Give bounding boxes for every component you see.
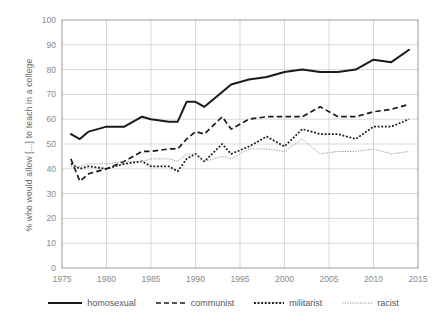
x-tick-label: 1980	[97, 274, 116, 284]
legend-label: racist	[377, 298, 399, 308]
y-tick-label: 0	[51, 263, 56, 273]
chart-legend: homosexualcommunistmilitaristracist	[0, 298, 447, 308]
y-tick-label: 50	[47, 139, 57, 149]
x-tick-label: 1985	[142, 274, 161, 284]
legend-label: homosexual	[87, 298, 136, 308]
legend-swatch-icon	[342, 299, 372, 307]
x-tick-label: 1990	[186, 274, 205, 284]
legend-item-racist[interactable]: racist	[342, 298, 399, 308]
plot-area: 0102030405060708090100 19751980198519901…	[0, 0, 447, 322]
y-tick-label: 90	[47, 40, 57, 50]
legend-swatch-icon	[48, 299, 82, 307]
x-tick-labels: 197519801985199019952000200520102015	[53, 274, 428, 284]
x-tick-label: 2010	[364, 274, 383, 284]
gridlines	[62, 20, 418, 268]
y-tick-label: 60	[47, 114, 57, 124]
x-tick-label: 2005	[320, 274, 339, 284]
legend-item-communist[interactable]: communist	[156, 298, 235, 308]
legend-swatch-icon	[254, 299, 284, 307]
legend-item-homosexual[interactable]: homosexual	[48, 298, 136, 308]
y-tick-label: 100	[42, 15, 56, 25]
y-tick-label: 30	[47, 189, 57, 199]
x-tick-label: 1975	[53, 274, 72, 284]
legend-swatch-icon	[156, 299, 186, 307]
y-tick-label: 70	[47, 89, 57, 99]
line-chart-svg: 0102030405060708090100 19751980198519901…	[0, 0, 447, 322]
y-tick-labels: 0102030405060708090100	[42, 15, 56, 273]
y-tick-label: 40	[47, 164, 57, 174]
chart-container: % who would allow [...] to teach in a co…	[0, 0, 447, 322]
y-tick-label: 10	[47, 238, 57, 248]
legend-label: militarist	[289, 298, 322, 308]
legend-item-militarist[interactable]: militarist	[254, 298, 322, 308]
y-tick-label: 20	[47, 213, 57, 223]
x-tick-label: 2015	[409, 274, 428, 284]
legend-label: communist	[191, 298, 235, 308]
y-tick-label: 80	[47, 65, 57, 75]
x-tick-label: 2000	[275, 274, 294, 284]
x-tick-label: 1995	[231, 274, 250, 284]
